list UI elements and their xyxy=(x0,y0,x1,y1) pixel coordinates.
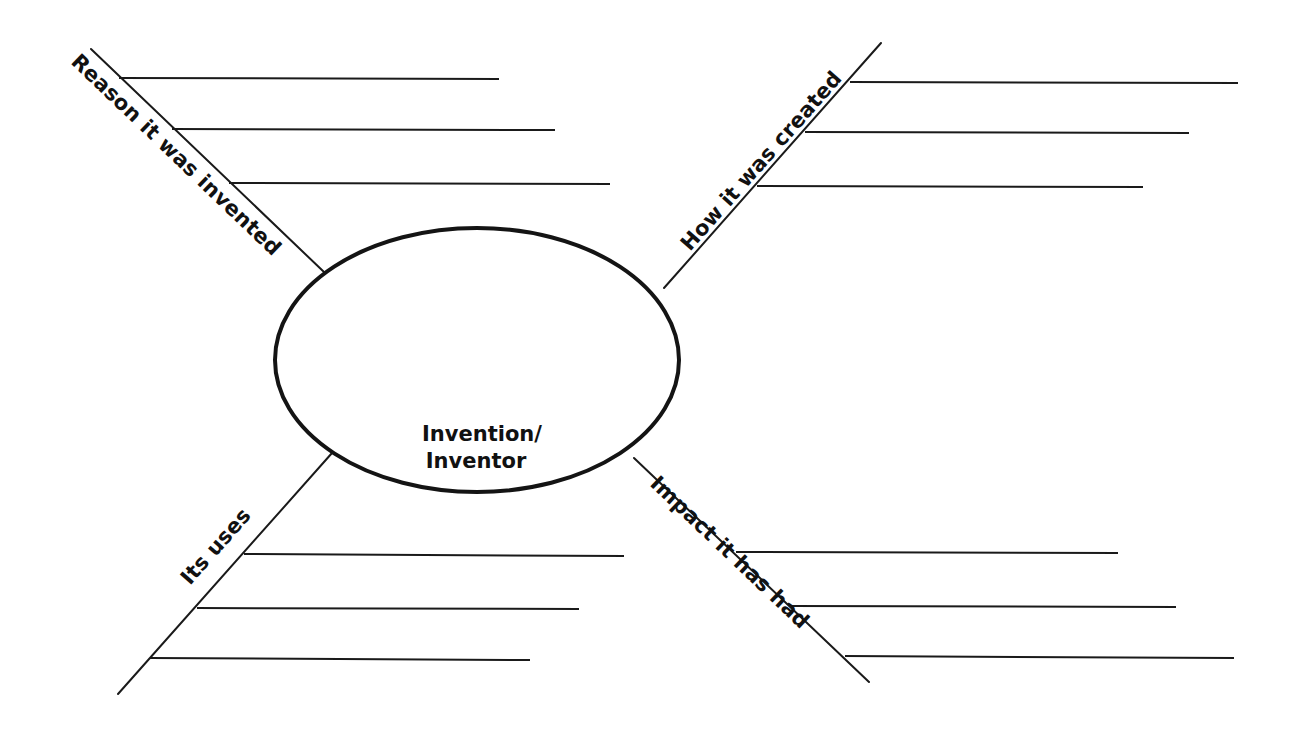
center-label-line2: Inventor xyxy=(426,449,527,473)
writing-line[interactable] xyxy=(805,132,1189,133)
writing-line[interactable] xyxy=(757,186,1143,187)
branch-label: How it was created xyxy=(676,67,847,256)
branch-how-it-was-created: How it was created xyxy=(664,43,1238,288)
center-label-line1: Invention/ xyxy=(422,422,542,446)
branch-its-uses: Its uses xyxy=(118,453,624,694)
writing-line[interactable] xyxy=(150,658,530,660)
writing-line[interactable] xyxy=(736,552,1118,553)
writing-line[interactable] xyxy=(119,78,499,79)
graphic-organizer: Reason it was invented How it was create… xyxy=(0,0,1296,734)
center-topic: Invention/ Inventor xyxy=(275,228,679,492)
branch-spine xyxy=(91,49,324,272)
writing-line[interactable] xyxy=(197,608,579,609)
branch-impact-it-has-had: Impact it has had xyxy=(634,458,1234,682)
writing-line[interactable] xyxy=(845,656,1234,658)
writing-line[interactable] xyxy=(172,129,555,130)
writing-line[interactable] xyxy=(229,183,610,184)
writing-line[interactable] xyxy=(244,554,624,556)
writing-line[interactable] xyxy=(850,82,1238,83)
branch-label: Its uses xyxy=(176,503,256,589)
writing-line[interactable] xyxy=(791,606,1176,607)
branch-label: Reason it was invented xyxy=(67,49,286,260)
